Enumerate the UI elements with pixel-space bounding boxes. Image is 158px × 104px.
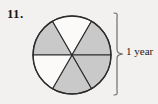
- curly-brace-icon: [112, 11, 126, 97]
- problem-number-label: 11.: [7, 7, 23, 20]
- bracket-label-text: 1 year: [126, 46, 153, 57]
- figure-container: 11. 1 year: [0, 0, 158, 104]
- pie-chart-diagram: [26, 9, 118, 101]
